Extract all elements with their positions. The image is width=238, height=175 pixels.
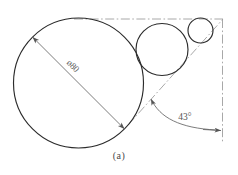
figure-caption: (a) [0,150,238,161]
medium-circle [136,24,188,76]
angle-leader-end-arrow [203,130,221,131]
angle-dimension-label: 43° [178,112,192,122]
diameter-dimension-line [33,37,125,129]
engineering-drawing-figure: ø80 43° (a) [0,0,238,175]
drawing-canvas: ø80 43° [0,0,238,175]
small-circle [188,18,213,43]
